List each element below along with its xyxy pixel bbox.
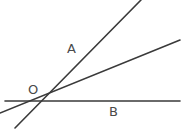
vertex-label-o: O [28, 83, 38, 96]
ray-label-a: A [67, 42, 76, 55]
ray-label-b: B [109, 105, 118, 118]
geometry-canvas [0, 0, 184, 134]
angle-diagram-figure: O A B [0, 0, 184, 134]
figure-background [0, 0, 184, 134]
